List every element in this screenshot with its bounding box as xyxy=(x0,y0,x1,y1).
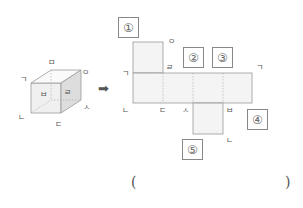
answer-paren-close: ) xyxy=(285,174,290,190)
net-label-d: ㄷ xyxy=(159,106,166,115)
cube-label-left: ㄱ xyxy=(20,75,27,84)
figure: ㅁ ㅇ ㄱ ㅂ ㄹ ㅅ ㄴ ㄷ ➡ ㅇ ㄹ ㄱ ㄱ ㄴ ㄷ ㅅ ㅂ ㄴ xyxy=(0,0,303,208)
answer-box-1: ① xyxy=(118,17,139,38)
cube-label-top-back: ㅁ xyxy=(48,58,55,67)
answer-box-4: ④ xyxy=(247,109,268,130)
net-label-g-right: ㄱ xyxy=(256,63,263,72)
net-label-g-left: ㄱ xyxy=(122,69,129,78)
arrow-icon: ➡ xyxy=(98,81,109,96)
cube-label-bottom-left: ㄴ xyxy=(18,113,25,122)
net-label-o: ㅇ xyxy=(168,37,175,46)
answer-paren-open: ( xyxy=(131,174,136,190)
cube-label-bottom: ㄷ xyxy=(55,120,62,129)
net-label-s: ㅅ xyxy=(182,106,189,115)
answer-box-2: ② xyxy=(183,47,204,68)
net-label-n-bottom: ㄴ xyxy=(226,136,233,145)
cube-face-side: ㄹ xyxy=(64,88,71,97)
answer-box-3: ③ xyxy=(212,47,233,68)
answer-box-5: ⑤ xyxy=(182,139,203,160)
net-label-b: ㅂ xyxy=(226,106,233,115)
net-label-n-left: ㄴ xyxy=(122,106,129,115)
cube-drawing xyxy=(31,70,81,113)
cube-label-top-right: ㅇ xyxy=(82,68,89,77)
cube-label-right: ㅅ xyxy=(83,103,90,112)
cube-face-front: ㅂ xyxy=(40,90,47,99)
net-label-r: ㄹ xyxy=(166,63,173,72)
